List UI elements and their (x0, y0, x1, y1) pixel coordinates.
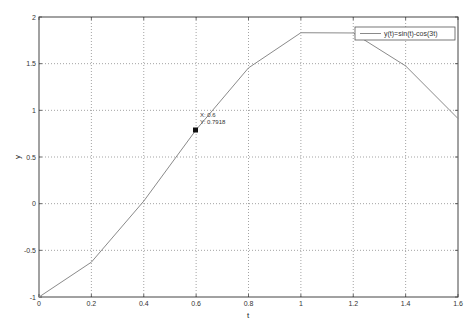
chart-figure: 00.20.40.60.811.21.41.6-1-0.500.511.52 t… (0, 0, 474, 320)
x-tick-label: 0.6 (191, 300, 201, 307)
y-axis-label: y (13, 155, 22, 159)
y-tick-label: 1.5 (26, 60, 36, 67)
y-tick-label: 0.5 (26, 154, 36, 161)
x-axis-label: t (247, 311, 250, 320)
datatip[interactable]: X: 0.6 Y: 0.7918 (193, 112, 226, 133)
y-tick-label: 1 (32, 107, 36, 114)
datatip-y: Y: 0.7918 (200, 119, 226, 125)
x-tick-label: 0.2 (87, 300, 97, 307)
y-tick-label: 2 (32, 14, 36, 21)
y-tick-label: 0 (32, 200, 36, 207)
x-tick-label: 0.4 (139, 300, 149, 307)
x-tick-label: 1.4 (401, 300, 411, 307)
legend[interactable]: y(t)=sin(t)-cos(3t) (355, 27, 455, 40)
x-tick-label: 0 (37, 300, 41, 307)
x-tick-label: 1.6 (453, 300, 463, 307)
y-tick-label: -1 (30, 294, 36, 301)
legend-label: y(t)=sin(t)-cos(3t) (384, 30, 437, 38)
y-tick-label: -0.5 (24, 247, 36, 254)
datatip-x: X: 0.6 (200, 112, 216, 118)
datatip-marker (193, 128, 198, 133)
x-tick-label: 1 (299, 300, 303, 307)
x-tick-label: 1.2 (348, 300, 358, 307)
x-tick-label: 0.8 (244, 300, 254, 307)
